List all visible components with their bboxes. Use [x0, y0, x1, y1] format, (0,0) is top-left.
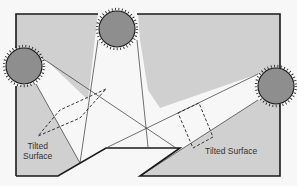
left-label-line1: Tilted: [23, 141, 52, 151]
left-sun-icon: [4, 46, 44, 86]
right-tilted-surface-label: Tilted Surface: [205, 146, 257, 156]
tilted-surface-diagram: Tilted Surface Tilted Surface: [0, 0, 297, 186]
top-sun-icon: [97, 9, 137, 49]
left-tilted-surface-label: Tilted Surface: [23, 141, 52, 161]
left-label-line2: Surface: [23, 151, 52, 161]
